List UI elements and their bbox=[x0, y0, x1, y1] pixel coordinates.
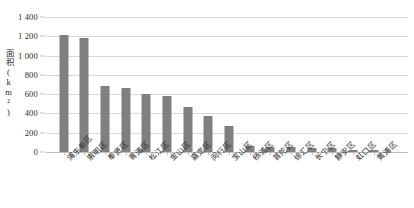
y-tick-label: 1 200 bbox=[18, 31, 38, 41]
bar-slot bbox=[301, 17, 322, 152]
y-tick-mark bbox=[40, 36, 45, 37]
y-tick-label: 1 000 bbox=[18, 51, 38, 61]
x-tick-mark bbox=[353, 152, 354, 155]
bar-slot bbox=[74, 17, 95, 152]
bar-slot bbox=[343, 17, 364, 152]
y-tick-mark bbox=[40, 74, 45, 75]
y-tick-mark bbox=[40, 152, 45, 153]
x-tick-mark bbox=[188, 152, 189, 155]
y-tick-mark bbox=[40, 55, 45, 56]
x-tick-mark bbox=[126, 152, 127, 155]
x-axis: 浦东新区崇明区奉贤区青浦区松江区金山区嘉定区闵行区宝山区杨浦区普陀区徐汇区长宁区… bbox=[46, 152, 408, 208]
y-tick-label: 600 bbox=[25, 89, 38, 99]
bar-slot bbox=[322, 17, 343, 152]
bar-slot bbox=[198, 17, 219, 152]
x-tick-mark bbox=[250, 152, 251, 155]
bar-slot bbox=[281, 17, 302, 152]
bar-slot bbox=[95, 17, 116, 152]
x-tick-mark bbox=[312, 152, 313, 155]
y-tick-label: 0 bbox=[34, 147, 38, 157]
x-tick-mark bbox=[374, 152, 375, 155]
y-tick-label: 200 bbox=[25, 128, 38, 138]
y-tick-mark bbox=[40, 132, 45, 133]
y-axis-title: 面积(km²) bbox=[4, 49, 13, 117]
x-tick-mark bbox=[291, 152, 292, 155]
bar-slot bbox=[115, 17, 136, 152]
y-tick-label: 400 bbox=[25, 108, 38, 118]
y-tick-mark bbox=[40, 17, 45, 18]
bar-slot bbox=[260, 17, 281, 152]
y-tick-label: 800 bbox=[25, 70, 38, 80]
bar-slot bbox=[136, 17, 157, 152]
bar-slot bbox=[364, 17, 385, 152]
y-tick-mark bbox=[40, 113, 45, 114]
bar-slot bbox=[177, 17, 198, 152]
x-tick-mark bbox=[229, 152, 230, 155]
x-tick-mark bbox=[167, 152, 168, 155]
plot-area bbox=[46, 17, 408, 152]
bar-slot bbox=[53, 17, 74, 152]
y-axis: 面积(km²) 02004006008001 0001 2001 400 bbox=[0, 0, 46, 152]
bar-slot bbox=[219, 17, 240, 152]
bar-slot bbox=[157, 17, 178, 152]
y-tick-mark bbox=[40, 94, 45, 95]
bar-chart: 面积(km²) 02004006008001 0001 2001 400 浦东新… bbox=[0, 0, 414, 208]
bar-slot bbox=[239, 17, 260, 152]
x-tick-mark bbox=[105, 152, 106, 155]
bar[interactable] bbox=[59, 35, 68, 152]
bars-layer bbox=[46, 17, 408, 152]
x-tick-mark bbox=[64, 152, 65, 155]
y-tick-label: 1 400 bbox=[18, 12, 38, 22]
